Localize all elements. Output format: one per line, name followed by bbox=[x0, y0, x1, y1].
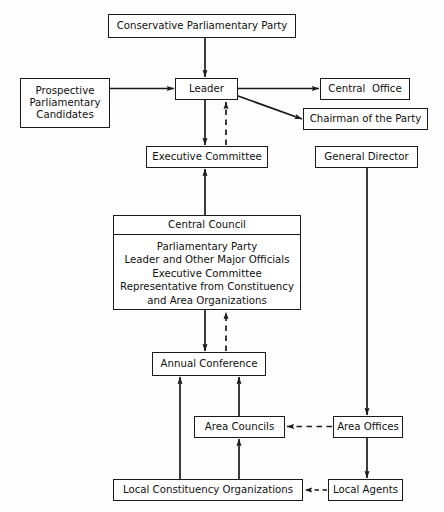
node-central-council[interactable]: Central Council Parliamentary Party Lead… bbox=[113, 215, 301, 310]
node-area-offices[interactable]: Area Offices bbox=[333, 416, 403, 438]
node-area-councils[interactable]: Area Councils bbox=[194, 416, 285, 438]
node-label-line-2: Parliamentary bbox=[29, 97, 100, 109]
node-local-constituency-organizations[interactable]: Local Constituency Organizations bbox=[113, 479, 303, 501]
central-council-title: Central Council bbox=[114, 216, 300, 235]
node-label: Local Constituency Organizations bbox=[123, 484, 293, 496]
node-prospective-parliamentary-candidates[interactable]: Prospective Parliamentary Candidates bbox=[20, 78, 110, 128]
node-label-line-1: Prospective bbox=[36, 85, 95, 97]
central-council-member-line-2: Leader and Other Major Officials bbox=[117, 253, 297, 266]
node-label: Leader bbox=[189, 83, 224, 95]
node-label: General Director bbox=[324, 151, 408, 163]
node-local-agents[interactable]: Local Agents bbox=[328, 479, 403, 501]
node-executive-committee[interactable]: Executive Committee bbox=[146, 146, 268, 168]
org-chart-diagram: Conservative Parliamentary Party Prospec… bbox=[0, 0, 444, 512]
node-label: Annual Conference bbox=[161, 358, 258, 370]
central-council-member-line-1: Parliamentary Party bbox=[117, 240, 297, 253]
node-leader[interactable]: Leader bbox=[175, 78, 238, 100]
node-annual-conference[interactable]: Annual Conference bbox=[152, 352, 266, 376]
node-label: Local Agents bbox=[333, 484, 398, 496]
edge-leader-to-chairman bbox=[238, 96, 302, 119]
node-label: Chairman of the Party bbox=[310, 113, 422, 125]
central-council-membership-list: Parliamentary Party Leader and Other Maj… bbox=[114, 235, 300, 312]
node-label: Conservative Parliamentary Party bbox=[117, 20, 288, 32]
node-label: Central Office bbox=[328, 83, 401, 95]
node-label: Executive Committee bbox=[152, 151, 261, 163]
node-conservative-parliamentary-party[interactable]: Conservative Parliamentary Party bbox=[108, 14, 296, 38]
node-label-line-3: Candidates bbox=[36, 109, 93, 121]
node-chairman-of-the-party[interactable]: Chairman of the Party bbox=[303, 108, 428, 130]
node-central-office[interactable]: Central Office bbox=[320, 78, 410, 100]
central-council-member-line-4: Representative from Constituency bbox=[117, 280, 297, 293]
central-council-member-line-5: and Area Organizations bbox=[117, 294, 297, 307]
central-council-member-line-3: Executive Committee bbox=[117, 267, 297, 280]
node-label: Area Councils bbox=[205, 421, 275, 433]
node-label: Area Offices bbox=[337, 421, 399, 433]
node-general-director[interactable]: General Director bbox=[315, 146, 418, 168]
